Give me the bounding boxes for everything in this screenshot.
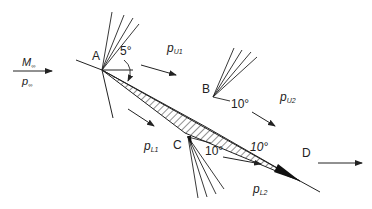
flow-arrow-upper-2 — [252, 112, 275, 126]
pressure-label-U1: pU1 — [166, 41, 183, 55]
mach-label: M∞ — [22, 56, 35, 69]
angle-label-B: 10° — [231, 97, 249, 111]
pressure-label-L2: pL2 — [252, 182, 268, 196]
point-D-label: D — [302, 146, 311, 160]
flow-arrow-lower-1 — [128, 109, 154, 126]
airfoil-diagram: M∞ p∞ A B C D 5° 10° — [0, 0, 372, 209]
expansion-fan-B — [213, 48, 257, 97]
angle-label-C: 10° — [205, 144, 223, 158]
trailing-edge-wedge — [274, 164, 300, 181]
trailing-line — [300, 181, 320, 192]
angle-label-A: 5° — [120, 44, 132, 58]
expansion-fan-A — [102, 12, 139, 70]
pressure-label-U2: pU2 — [279, 90, 296, 104]
reference-line-B — [213, 97, 230, 101]
angle-label-D: 10° — [250, 140, 268, 154]
point-B-label: B — [202, 82, 210, 96]
freestream-pressure-label: p∞ — [21, 75, 32, 88]
point-C-label: C — [173, 138, 182, 152]
point-A-label: A — [92, 49, 100, 63]
pressure-label-L1: pL1 — [143, 139, 159, 153]
flow-arrow-upper-1 — [141, 65, 176, 75]
